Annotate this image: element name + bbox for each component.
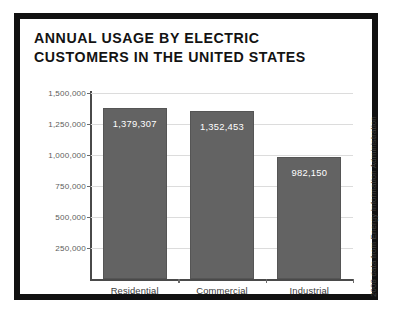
bar: 982,150 xyxy=(277,157,341,279)
y-axis-tick xyxy=(87,93,91,94)
chart-title: ANNUAL USAGE BY ELECTRIC CUSTOMERS IN TH… xyxy=(34,29,334,66)
bar-value-label: 1,379,307 xyxy=(104,118,166,129)
x-axis-category-label: Commercial xyxy=(178,285,265,296)
bar-value-label: 982,150 xyxy=(278,167,340,178)
y-axis-tick xyxy=(87,217,91,218)
bar: 1,379,307 xyxy=(103,108,167,279)
x-axis-category-label: Industrial xyxy=(266,285,353,296)
x-axis-tick xyxy=(266,279,267,283)
y-axis-tick-label: 250,000 xyxy=(55,244,86,253)
y-axis-tick-labels: 250,000500,000750,0001,000,0001,250,0001… xyxy=(20,93,86,279)
x-axis-tick xyxy=(178,279,179,283)
y-axis-tick xyxy=(87,186,91,187)
y-axis-tick xyxy=(87,248,91,249)
y-axis-tick-label: 500,000 xyxy=(55,213,86,222)
y-axis-tick-label: 1,000,000 xyxy=(48,151,86,160)
bar-chart: Millions of kWh 250,000500,000750,0001,0… xyxy=(20,77,372,294)
chart-frame-inner: ANNUAL USAGE BY ELECTRIC CUSTOMERS IN TH… xyxy=(20,19,372,294)
y-axis-tick-label: 1,500,000 xyxy=(48,89,86,98)
y-axis-tick-label: 1,250,000 xyxy=(48,120,86,129)
x-axis-tick xyxy=(353,279,354,283)
chart-title-line-1: ANNUAL USAGE BY ELECTRIC xyxy=(34,29,334,48)
y-axis-tick xyxy=(87,155,91,156)
gridline xyxy=(91,93,353,94)
bar-value-label: 1,352,453 xyxy=(191,121,253,132)
x-axis-line xyxy=(90,279,354,281)
y-axis-tick xyxy=(87,124,91,125)
chart-page: ANNUAL USAGE BY ELECTRIC CUSTOMERS IN TH… xyxy=(0,0,396,320)
chart-title-line-2: CUSTOMERS IN THE UNITED STATES xyxy=(34,48,334,67)
x-axis-category-label: Residential xyxy=(91,285,178,296)
source-note: 2008 data from Energy Information Admini… xyxy=(369,116,378,297)
y-axis-tick-label: 750,000 xyxy=(55,182,86,191)
bar: 1,352,453 xyxy=(190,111,254,279)
plot-area: 1,379,3071,352,453982,150 xyxy=(91,93,353,279)
chart-frame-border: ANNUAL USAGE BY ELECTRIC CUSTOMERS IN TH… xyxy=(14,13,378,300)
